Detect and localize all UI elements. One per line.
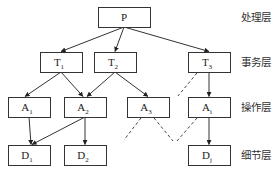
node-label: P (121, 11, 127, 23)
dashed-line-t3-left (178, 73, 197, 96)
edge-p-to-t3 (124, 27, 209, 52)
edges-group (25, 27, 209, 145)
node-a3: A3 (128, 98, 170, 118)
layer-label-detail: 细节层 (241, 149, 271, 161)
node-a2: A2 (65, 98, 107, 118)
edge-a2-to-d1 (32, 117, 85, 145)
node-a1: A1 (9, 98, 51, 118)
edge-p-to-t2 (115, 27, 124, 52)
hierarchy-diagram: PT1T2T3A1A2A3AiD1D2Dj 处理层 事务层 操作层 细节层 (0, 0, 278, 178)
node-d2: D2 (65, 146, 107, 166)
node-dj: Dj (189, 146, 231, 166)
edge-t2-to-a3 (115, 72, 148, 97)
layer-labels: 处理层 事务层 操作层 细节层 (241, 11, 271, 161)
dashed-line-a3-left (124, 118, 141, 140)
nodes-group: PT1T2T3A1A2A3AiD1D2Dj (9, 8, 231, 166)
node-d1: D1 (9, 146, 51, 166)
layer-label-operation: 操作层 (241, 101, 271, 113)
edge-t2-to-a2 (87, 72, 115, 97)
edge-p-to-t1 (61, 27, 124, 52)
node-t3: T3 (189, 53, 231, 73)
edge-t1-to-a2 (61, 72, 83, 97)
node-t2: T2 (95, 53, 137, 73)
layer-label-transaction: 事务层 (241, 56, 271, 68)
edge-a1-to-d1 (29, 117, 31, 145)
dashed-line-ai-left (177, 118, 197, 141)
dashed-line-a3-right (154, 118, 173, 141)
node-ai: Ai (189, 98, 231, 118)
node-p: P (99, 8, 151, 28)
layer-label-processing: 处理层 (241, 11, 271, 23)
node-t1: T1 (41, 53, 83, 73)
edge-t1-to-a1 (25, 72, 61, 97)
